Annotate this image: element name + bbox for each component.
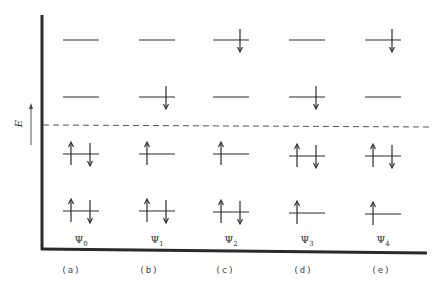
panel-label: (b) <box>139 265 158 275</box>
energy-axis-label: E <box>13 120 24 127</box>
panel-label: (e) <box>371 265 390 275</box>
fermi-level-dashed-line <box>43 125 432 127</box>
state-label: Ψ2 <box>224 234 237 248</box>
state-label: Ψ0 <box>74 234 87 248</box>
panel-label: (d) <box>293 265 312 275</box>
panel-label: (a) <box>61 265 80 275</box>
panel-label: (c) <box>215 265 234 275</box>
state-label: Ψ3 <box>300 234 313 248</box>
state-label: Ψ4 <box>376 234 389 248</box>
energy-arrow-icon <box>29 103 33 145</box>
horizontal-axis <box>41 249 427 253</box>
energy-level-diagram <box>0 0 443 293</box>
levels-group <box>63 29 401 225</box>
state-label: Ψ1 <box>150 234 163 248</box>
